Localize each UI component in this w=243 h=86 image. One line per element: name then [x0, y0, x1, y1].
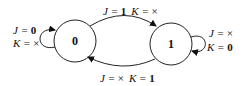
- transition-1-to-0-arrow: [88, 57, 155, 66]
- svg-text:J = 0: J = 0: [13, 24, 37, 36]
- state-1-label: 1: [168, 37, 174, 51]
- svg-text:K = 0: K = 0: [206, 41, 233, 53]
- state-diagram: 0 1 J = 1K = × J = ×K = 1 J = 0 K = × J …: [0, 0, 243, 86]
- svg-text:K = ×: K = ×: [12, 37, 39, 49]
- transition-0-to-1-arrow: [90, 16, 156, 27]
- transition-0-to-1-label: J = 1K = ×: [103, 5, 158, 17]
- self-loop-0-label: J = 0 K = ×: [12, 24, 39, 49]
- state-1: 1: [150, 23, 192, 65]
- self-loop-0-arrow: [40, 30, 55, 48]
- self-loop-1-label: J = × K = 0: [206, 27, 233, 53]
- state-0-label: 0: [72, 34, 78, 48]
- transition-1-to-0-label: J = ×K = 1: [100, 72, 155, 84]
- svg-text:J = ×: J = ×: [209, 27, 233, 39]
- self-loop-1-arrow: [191, 36, 205, 52]
- state-0: 0: [54, 20, 96, 62]
